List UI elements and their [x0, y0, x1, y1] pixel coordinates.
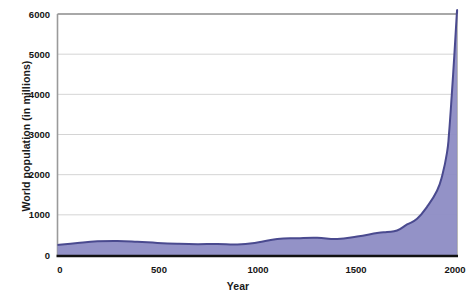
gridlines	[58, 54, 458, 215]
chart-container: World population (in millions) Year 6000…	[0, 0, 476, 298]
population-area-fill	[58, 10, 458, 255]
plot-area	[0, 0, 476, 298]
population-area-line	[58, 10, 458, 245]
